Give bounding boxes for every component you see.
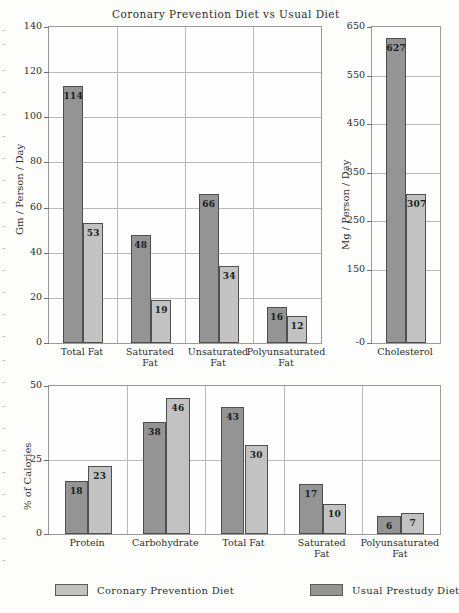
bar-value-label: 114 (64, 91, 82, 101)
scan-speck (2, 136, 5, 137)
y-axis-tick-label: 100 (24, 111, 42, 121)
x-axis-category-label: PolyunsaturatedFat (244, 346, 328, 368)
y-axis-tick (367, 27, 372, 28)
y-axis-tick (44, 162, 49, 163)
bar-usual-prestudy-diet: 17 (299, 484, 322, 534)
scan-speck (2, 158, 5, 159)
legend-item-coronary-prevention-diet: Coronary Prevention Diet (55, 584, 234, 596)
chart-fat-grams-plot-area: 11453481966341612 (48, 26, 322, 344)
scan-speck (2, 314, 5, 315)
scan-speck (2, 248, 5, 249)
scan-speck (2, 202, 5, 203)
bar-value-label: 53 (84, 228, 102, 238)
scan-speck (2, 92, 5, 93)
y-axis-tick-label: 350 (347, 167, 365, 177)
bar-usual-prestudy-diet: 18 (65, 481, 88, 534)
legend-item-usual-prestudy-diet: Usual Prestudy Diet (310, 584, 459, 596)
legend-item-label: Usual Prestudy Diet (352, 585, 459, 596)
y-axis-tick (367, 270, 372, 271)
bar-value-label: 19 (152, 305, 170, 315)
bar-usual-prestudy-diet: 48 (131, 235, 151, 343)
bar-usual-prestudy-diet: 114 (63, 86, 83, 343)
scan-speck (2, 226, 5, 227)
y-axis-tick (44, 534, 49, 535)
y-axis-tick (367, 343, 372, 344)
category-divider (127, 386, 128, 534)
bar-value-label: 34 (220, 271, 238, 281)
bar-coronary-prevention-diet: 23 (88, 466, 111, 534)
bar-usual-prestudy-diet: 43 (221, 407, 244, 534)
bar-value-label: 6 (378, 521, 399, 531)
y-axis-tick (367, 221, 372, 222)
scan-speck (2, 516, 5, 517)
bar-value-label: 17 (300, 489, 321, 499)
y-gridline (372, 173, 440, 174)
category-divider (253, 27, 254, 343)
y-axis-tick-label: 20 (30, 292, 42, 302)
bar-value-label: 66 (200, 199, 218, 209)
y-axis-tick (44, 460, 49, 461)
bar-value-label: 30 (246, 450, 267, 460)
chart-fat-grams-y-axis-label: Gm / Person / Day (14, 144, 25, 235)
scan-speck (2, 70, 5, 71)
legend-swatch-icon (55, 584, 88, 596)
bar-value-label: 43 (222, 412, 243, 422)
scan-speck (2, 382, 5, 383)
scan-speck (2, 472, 5, 473)
scan-speck (2, 428, 5, 429)
y-axis-tick-label: 60 (30, 202, 42, 212)
bar-value-label: 38 (144, 427, 165, 437)
chart-cholesterol-plot-area: 627307 (371, 26, 441, 344)
y-axis-tick-label: 50 (30, 380, 42, 390)
scan-speck (2, 538, 5, 539)
bar-value-label: 18 (66, 486, 87, 496)
bar-value-label: 16 (268, 312, 286, 322)
y-axis-tick (44, 27, 49, 28)
y-axis-tick-label: 140 (24, 21, 42, 31)
category-divider (362, 386, 363, 534)
category-divider (205, 386, 206, 534)
y-axis-tick (367, 124, 372, 125)
y-axis-tick (44, 208, 49, 209)
bar-coronary-prevention-diet: 30 (245, 445, 268, 534)
bar-value-label: 627 (387, 43, 405, 53)
bar-usual-prestudy-diet: 6 (377, 516, 400, 534)
y-axis-tick (367, 173, 372, 174)
figure-title: Coronary Prevention Diet vs Usual Diet (112, 8, 340, 20)
y-gridline (372, 124, 440, 125)
bar-coronary-prevention-diet: 307 (406, 194, 426, 343)
y-axis-tick-label: 450 (347, 118, 365, 128)
y-axis-tick-label: 250 (347, 215, 365, 225)
bar-usual-prestudy-diet: 66 (199, 194, 219, 343)
y-axis-tick (44, 253, 49, 254)
bar-coronary-prevention-diet: 53 (83, 223, 103, 343)
y-axis-tick-label: 25 (30, 454, 42, 464)
bar-coronary-prevention-diet: 34 (219, 266, 239, 343)
bar-coronary-prevention-diet: 46 (166, 398, 189, 534)
y-axis-tick (44, 298, 49, 299)
bar-coronary-prevention-diet: 19 (151, 300, 171, 343)
category-divider (284, 386, 285, 534)
bar-value-label: 23 (89, 471, 110, 481)
bar-value-label: 307 (407, 199, 425, 209)
scan-speck (2, 44, 5, 45)
y-axis-tick (44, 117, 49, 118)
chart-percent-calories-plot-area: 182338464330171067 (48, 385, 441, 535)
bar-usual-prestudy-diet: 627 (386, 38, 406, 343)
y-gridline (372, 76, 440, 77)
scan-speck (2, 270, 5, 271)
y-axis-tick-label: 650 (347, 21, 365, 31)
scan-speck (2, 360, 5, 361)
bar-value-label: 7 (402, 518, 423, 528)
category-divider (117, 27, 118, 343)
y-axis-tick-label: 150 (347, 264, 365, 274)
y-axis-tick-label: 550 (347, 70, 365, 80)
bar-value-label: 48 (132, 240, 150, 250)
scan-speck (2, 292, 5, 293)
scan-margin-artifact (2, 30, 8, 593)
bar-value-label: 12 (288, 321, 306, 331)
category-divider (185, 27, 186, 343)
legend-item-label: Coronary Prevention Diet (97, 585, 234, 596)
y-axis-tick (44, 72, 49, 73)
